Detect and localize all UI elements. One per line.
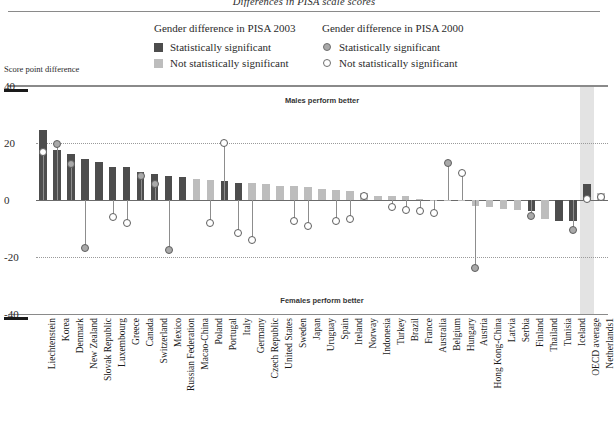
category-label-indonesia: Indonesia — [382, 318, 392, 355]
category-label-liechtenstein: Liechtenstein — [47, 318, 57, 369]
legend-item-2000-significant: Statistically significant — [322, 39, 464, 55]
legend-item-2003-significant: Statistically significant — [154, 39, 296, 55]
marker-italy — [234, 229, 242, 237]
marker-norway — [360, 192, 368, 200]
figure-title: Differences in PISA scale scores — [0, 0, 608, 7]
category-label-sweden: Sweden — [298, 318, 308, 348]
marker-mexico — [165, 246, 173, 254]
marker-stem — [85, 200, 86, 248]
y-axis-tick-rule — [4, 89, 28, 92]
marker-stem — [252, 200, 253, 240]
category-label-germany: Germany — [256, 318, 266, 353]
category-label-tunisia: Tunisia — [563, 318, 573, 346]
marker-netherlands — [597, 193, 605, 201]
bar-united-states — [276, 186, 284, 200]
category-label-oecd-average: OECD average — [591, 318, 601, 376]
marker-korea — [53, 140, 61, 148]
zero-axis-line — [36, 200, 608, 201]
marker-portugal — [220, 139, 228, 147]
bar-belgium — [444, 200, 452, 201]
category-label-brazil: Brazil — [410, 318, 420, 341]
bar-thailand — [541, 200, 549, 219]
legend-item-2003-not-significant: Not statistically significant — [154, 55, 296, 71]
plot-bottom-rule — [8, 314, 608, 316]
marker-japan — [304, 222, 312, 230]
category-label-canada: Canada — [145, 318, 155, 347]
y-axis-tick-rule — [4, 317, 28, 320]
marker-france — [416, 207, 424, 215]
marker-hungary — [458, 169, 466, 177]
category-label-denmark: Denmark — [75, 318, 85, 353]
bar-macao-china — [193, 179, 201, 200]
bar-ireland — [346, 191, 354, 200]
marker-iceland — [569, 226, 577, 234]
category-label-luxembourg: Luxembourg — [117, 318, 127, 367]
category-label-serbia: Serbia — [521, 318, 531, 342]
bar-russian-federation — [179, 177, 187, 200]
marker-turkey — [388, 203, 396, 211]
bar-spain — [332, 190, 340, 200]
marker-liechtenstein — [39, 148, 47, 156]
marker-brazil — [402, 206, 410, 214]
category-label-russian-federation: Russian Federation — [186, 318, 196, 391]
category-label-netherlands: Netherlands1 — [605, 318, 615, 369]
males-perform-better-note: Males perform better — [285, 96, 359, 105]
category-label-greece: Greece — [131, 318, 141, 345]
open-circle-marker-icon — [323, 59, 331, 67]
marker-germany — [248, 236, 256, 244]
category-label-mexico: Mexico — [173, 318, 183, 347]
bar-latvia — [500, 200, 508, 209]
filled-circle-marker-icon — [323, 43, 331, 51]
bar-uruguay — [318, 189, 326, 200]
bar-greece — [123, 167, 131, 200]
marker-stem — [462, 173, 463, 200]
marker-oecd-average — [583, 195, 591, 203]
plot-top-rule — [8, 85, 608, 87]
category-label-belgium: Belgium — [452, 318, 462, 351]
category-label-uruguay: Uruguay — [326, 318, 336, 351]
category-label-macao-china: Macao-China — [200, 318, 210, 370]
category-label-norway: Norway — [368, 318, 378, 349]
y-axis-tick-label: -20 — [4, 251, 19, 263]
category-label-poland: Poland — [214, 318, 224, 344]
marker-stem — [43, 152, 44, 200]
category-label-italy: Italy — [242, 318, 252, 335]
category-label-hong-kong-china: Hong Kong-China — [493, 318, 503, 388]
marker-canada — [137, 172, 145, 180]
legend-heading-2000: Gender difference in PISA 2000 — [322, 22, 464, 34]
marker-belgium — [444, 159, 452, 167]
legend-column-pisa-2000: Gender difference in PISA 2000 Statistic… — [322, 22, 464, 71]
category-label-austria: Austria — [479, 318, 489, 346]
legend-heading-2003: Gender difference in PISA 2003 — [154, 22, 296, 34]
category-label-iceland: Iceland — [577, 318, 587, 346]
x-axis-category-labels: LiechtensteinKoreaDenmarkNew ZealandSlov… — [36, 316, 608, 426]
category-label-france: France — [424, 318, 434, 344]
bar-hong-kong-china — [486, 200, 494, 207]
marker-stem — [475, 200, 476, 268]
marker-stem — [448, 163, 449, 200]
marker-ireland — [346, 215, 354, 223]
marker-poland — [206, 219, 214, 227]
marker-stem — [224, 143, 225, 200]
females-perform-better-note: Females perform better — [280, 296, 363, 305]
marker-stem — [169, 200, 170, 250]
bar-luxembourg — [109, 167, 117, 200]
legend-column-pisa-2003: Gender difference in PISA 2003 Statistic… — [154, 22, 296, 71]
marker-switzerland — [151, 180, 159, 188]
bar-germany — [248, 183, 256, 200]
category-label-hungary: Hungary — [466, 318, 476, 351]
bar-serbia — [514, 200, 522, 210]
category-label-czech-republic: Czech Republic — [270, 318, 280, 378]
bar-new-zealand — [81, 159, 89, 200]
bar-japan — [304, 187, 312, 200]
bar-sweden — [290, 186, 298, 200]
bar-poland — [207, 180, 215, 200]
marker-spain — [332, 217, 340, 225]
bar-czech-republic — [262, 184, 270, 200]
marker-denmark — [67, 160, 75, 168]
bar-italy — [235, 183, 243, 200]
category-label-thailand: Thailand — [549, 318, 559, 352]
marker-new-zealand — [81, 244, 89, 252]
legend-item-2000-not-significant: Not statistically significant — [322, 55, 464, 71]
marker-sweden — [290, 217, 298, 225]
